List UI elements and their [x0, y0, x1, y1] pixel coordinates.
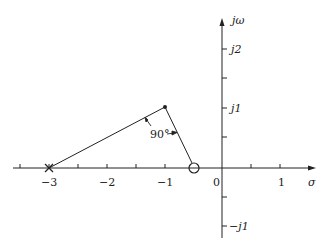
- angle-90-label: 90°: [150, 128, 170, 141]
- tick-label-1: 1: [278, 176, 285, 189]
- vector-from-pole: [49, 107, 165, 168]
- diagram-canvas: −3 −2 −1 0 1 σ jω j2 j1 −j1 90°: [0, 0, 327, 243]
- s-plane-diagram: −3 −2 −1 0 1 σ jω j2 j1 −j1 90°: [0, 0, 327, 243]
- tick-label-neg-j1: −j1: [229, 220, 249, 233]
- tick-label-neg2: −2: [99, 176, 115, 189]
- sigma-axis-label: σ: [308, 176, 316, 189]
- jomega-axis-label: jω: [229, 14, 244, 27]
- test-point-dot: [163, 105, 167, 109]
- tick-label-neg1: −1: [157, 176, 173, 189]
- real-axis: [13, 164, 316, 171]
- tick-label-j2: j2: [228, 43, 241, 56]
- tick-label-j1: j1: [228, 102, 241, 115]
- tick-label-0: 0: [213, 176, 220, 189]
- imaginary-axis: [220, 18, 228, 238]
- tick-label-neg3: −3: [41, 176, 57, 189]
